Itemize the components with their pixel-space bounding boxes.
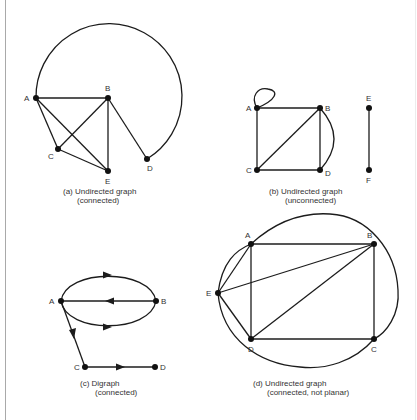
node-a-C — [55, 146, 61, 152]
graph-c: A B C D (c) Digraph (connected) — [49, 272, 166, 398]
caption-b-line1: (b) Undirected graph — [269, 187, 342, 196]
edge-a-B-D — [108, 98, 147, 159]
label-d-B: B — [367, 231, 372, 240]
edge-a-A-C — [36, 98, 58, 149]
node-d-B — [371, 241, 377, 247]
label-d-E: E — [206, 289, 211, 298]
arrow-right-icon — [116, 364, 125, 371]
node-a-D — [144, 156, 150, 162]
caption-a-line1: (a) Undirected graph — [63, 187, 136, 196]
graph-a: A B C D E (a) Undirected graph (connecte… — [24, 24, 182, 205]
caption-b-line2: (unconnected) — [285, 196, 336, 205]
label-a-C: C — [48, 152, 54, 161]
label-d-A: A — [245, 231, 251, 240]
label-a-D: D — [147, 164, 153, 173]
node-c-B — [153, 298, 159, 304]
node-d-A — [248, 241, 254, 247]
label-d-D: D — [248, 345, 254, 354]
graph-d: A B C D E (d) Undirected graph (connecte… — [206, 214, 398, 397]
edge-b-B-C — [257, 108, 320, 170]
label-b-C: C — [246, 166, 252, 175]
caption-c-line2: (connected) — [95, 388, 138, 397]
node-c-A — [58, 298, 64, 304]
graph-b: A B C D E F (b) Undirected graph (unconn… — [246, 89, 372, 205]
edge-c-A-B-upper-arc — [61, 276, 156, 301]
node-a-E — [105, 168, 111, 174]
node-b-B — [317, 105, 323, 111]
edge-c-A-B-lower-arc — [61, 301, 156, 326]
label-b-F: F — [366, 176, 371, 185]
label-c-A: A — [49, 297, 55, 306]
edge-a-C-E — [58, 149, 108, 171]
label-b-B: B — [325, 104, 330, 113]
label-c-B: B — [161, 297, 166, 306]
edge-d-B-E — [218, 244, 374, 293]
label-a-B: B — [105, 84, 110, 93]
node-c-D — [152, 364, 158, 370]
edge-b-B-D-arc — [320, 108, 334, 170]
arrow-left-icon — [105, 298, 114, 305]
label-b-D: D — [325, 169, 331, 178]
node-b-F — [366, 167, 372, 173]
caption-d-line1: (d) Undirected graph — [253, 379, 326, 388]
label-a-A: A — [24, 94, 30, 103]
node-b-D — [317, 167, 323, 173]
label-a-E: E — [105, 177, 110, 186]
node-a-A — [33, 95, 39, 101]
caption-c-line1: (c) Digraph — [80, 379, 120, 388]
node-a-B — [105, 95, 111, 101]
label-c-D: D — [160, 363, 166, 372]
label-b-E: E — [366, 94, 371, 103]
edge-d-B-D — [251, 244, 374, 339]
label-d-C: C — [371, 345, 377, 354]
node-c-C — [82, 364, 88, 370]
label-b-A: A — [246, 104, 252, 113]
graph-figures: A B C D E (a) Undirected graph (connecte… — [0, 0, 417, 420]
caption-d-line2: (connected, not planar) — [267, 388, 350, 397]
label-c-C: C — [74, 363, 80, 372]
edge-a-B-C — [58, 98, 108, 149]
caption-a-line2: (connected) — [77, 196, 120, 205]
node-d-E — [215, 290, 221, 296]
node-d-D — [248, 336, 254, 342]
node-b-A — [254, 105, 260, 111]
node-b-E — [366, 105, 372, 111]
node-d-C — [371, 336, 377, 342]
arrow-right-icon — [103, 272, 112, 279]
node-b-C — [254, 167, 260, 173]
edge-d-A-E — [218, 244, 251, 293]
arrow-down-icon — [69, 328, 76, 339]
arrow-right-icon — [103, 324, 112, 331]
